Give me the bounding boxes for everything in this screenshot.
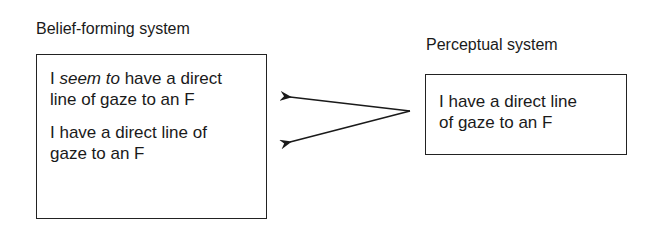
arrow-to-direct-belief [290,111,410,142]
arrow-to-seeming-belief [290,97,410,111]
arrows [0,0,659,228]
